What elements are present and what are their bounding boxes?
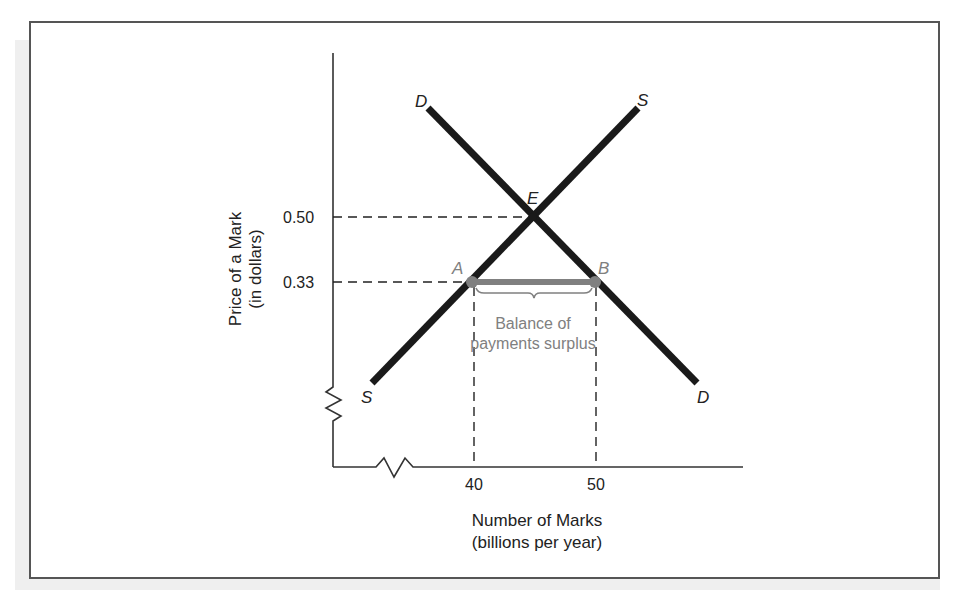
label-d-bottom: D [697,388,709,407]
x-axis-title-line2: (billions per year) [472,533,602,552]
point-a-marker [466,276,478,288]
label-e: E [527,189,539,208]
x-axis-title-line1: Number of Marks [472,511,602,530]
label-a: A [451,259,463,278]
x-tick-50: 50 [587,476,605,493]
label-s-bottom: S [361,388,373,407]
surplus-label-line2: payments surplus [470,335,595,352]
surplus-brace [476,288,592,298]
y-axis-title-line1: Price of a Mark [226,211,245,326]
label-d-top: D [415,92,427,111]
surplus-label-line1: Balance of [495,315,571,332]
y-tick-050: 0.50 [283,209,314,226]
y-axis [326,53,341,467]
label-s-top: S [637,91,649,110]
label-b: B [598,259,609,278]
point-e-marker [529,213,537,221]
y-axis-title-line2: (in dollars) [246,229,265,308]
x-tick-40: 40 [465,476,483,493]
supply-demand-chart: D S S D E A B 0.50 0.33 40 50 Balance of… [0,0,964,599]
x-axis [333,458,743,477]
y-tick-033: 0.33 [283,274,314,291]
